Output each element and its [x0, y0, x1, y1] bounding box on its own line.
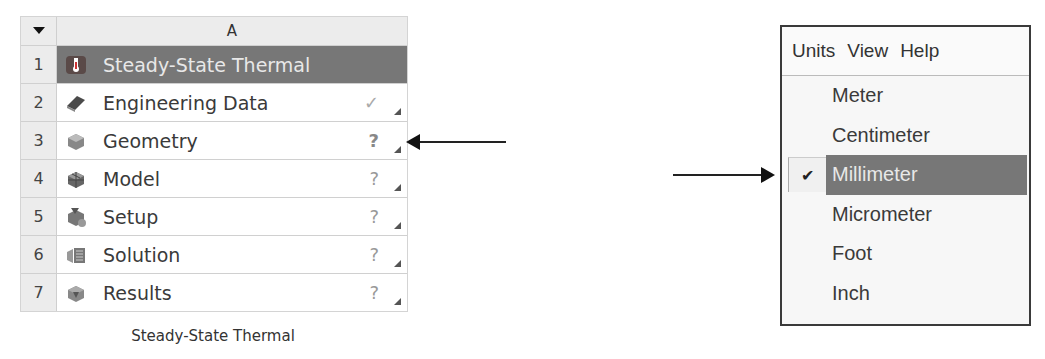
cell-engineering-data[interactable]: Engineering Data ✓: [57, 84, 407, 121]
check-slot: [788, 118, 826, 153]
setup-icon: [65, 206, 87, 228]
cell-label: Results: [103, 282, 172, 304]
menu-units[interactable]: Units: [792, 40, 835, 62]
units-menu-window: Units View Help Meter Centimeter ✔ Milli…: [780, 25, 1031, 326]
schematic-row-model[interactable]: 4 Model ?: [21, 159, 407, 197]
cell-corner-triangle-icon: [394, 146, 401, 153]
cell-label: Model: [103, 168, 160, 190]
row-number: 7: [21, 274, 57, 311]
cell-results[interactable]: Results ?: [57, 274, 407, 311]
checkmark-icon: ✔: [788, 157, 826, 192]
check-slot: [788, 276, 826, 311]
menu-item-label: Micrometer: [826, 195, 1029, 235]
schematic-header-row: A: [21, 17, 407, 45]
callout-arrow-left-icon: [420, 141, 506, 143]
dropdown-triangle-icon: [33, 27, 45, 35]
model-mesh-icon: [65, 168, 87, 190]
menu-item-label: Centimeter: [826, 116, 1029, 156]
cell-solution[interactable]: Solution ?: [57, 236, 407, 273]
menu-item-label: Inch: [826, 274, 1029, 314]
row-number: 6: [21, 236, 57, 273]
schematic-row-setup[interactable]: 5 Setup ?: [21, 197, 407, 235]
row-number: 5: [21, 198, 57, 235]
row-number: 3: [21, 122, 57, 159]
refresh-required-icon: ?: [369, 206, 379, 227]
schematic-row-title[interactable]: 1 Steady-State Thermal: [21, 45, 407, 83]
menu-item-label: Millimeter: [826, 155, 1027, 195]
geometry-cube-icon: [65, 130, 87, 152]
cell-corner-triangle-icon: [394, 108, 401, 115]
cell-label: Setup: [103, 206, 158, 228]
menu-item-micrometer[interactable]: Micrometer: [782, 195, 1029, 235]
check-slot: [788, 236, 826, 271]
cell-label: Steady-State Thermal: [103, 54, 310, 76]
solution-icon: [65, 244, 87, 266]
system-caption[interactable]: Steady-State Thermal: [20, 327, 406, 345]
project-schematic-system: A 1 Steady-State Thermal 2 Engineering D…: [20, 16, 408, 312]
cell-geometry[interactable]: Geometry ?: [57, 122, 407, 159]
units-dropdown: Meter Centimeter ✔ Millimeter Micrometer…: [782, 76, 1029, 313]
row-number: 1: [21, 46, 57, 83]
cell-corner-triangle-icon: [394, 260, 401, 267]
check-slot: [788, 197, 826, 232]
thermometer-icon: [65, 54, 87, 76]
cell-corner-triangle-icon: [394, 298, 401, 305]
menu-item-meter[interactable]: Meter: [782, 76, 1029, 116]
row-number: 4: [21, 160, 57, 197]
schematic-row-engineering-data[interactable]: 2 Engineering Data ✓: [21, 83, 407, 121]
schematic-row-solution[interactable]: 6 Solution ?: [21, 235, 407, 273]
menu-view[interactable]: View: [847, 40, 888, 62]
cell-corner-triangle-icon: [394, 184, 401, 191]
cell-steady-state-thermal[interactable]: Steady-State Thermal: [57, 46, 407, 83]
up-to-date-check-icon: ✓: [364, 92, 379, 113]
cell-label: Engineering Data: [103, 92, 268, 114]
cell-label: Solution: [103, 244, 180, 266]
menu-item-centimeter[interactable]: Centimeter: [782, 116, 1029, 156]
system-menu-button[interactable]: [21, 17, 57, 45]
results-icon: [65, 282, 87, 304]
menu-item-label: Foot: [826, 234, 1029, 274]
refresh-required-icon: ?: [369, 244, 379, 265]
attention-question-icon: ?: [369, 130, 379, 151]
schematic-row-geometry[interactable]: 3 Geometry ?: [21, 121, 407, 159]
schematic-row-results[interactable]: 7 Results ?: [21, 273, 407, 311]
cell-label: Geometry: [103, 130, 198, 152]
row-number: 2: [21, 84, 57, 121]
cell-model[interactable]: Model ?: [57, 160, 407, 197]
menu-item-inch[interactable]: Inch: [782, 274, 1029, 314]
menu-help[interactable]: Help: [900, 40, 939, 62]
cell-corner-triangle-icon: [394, 222, 401, 229]
check-slot: [788, 78, 826, 113]
callout-arrow-right-icon: [673, 174, 761, 176]
engineering-data-book-icon: [65, 92, 87, 114]
menu-item-label: Meter: [826, 76, 1029, 116]
column-header-a: A: [57, 17, 407, 45]
menu-item-millimeter[interactable]: ✔ Millimeter: [782, 155, 1029, 195]
menu-item-foot[interactable]: Foot: [782, 234, 1029, 274]
menubar: Units View Help: [782, 27, 1029, 76]
cell-setup[interactable]: Setup ?: [57, 198, 407, 235]
refresh-required-icon: ?: [369, 282, 379, 303]
refresh-required-icon: ?: [369, 168, 379, 189]
